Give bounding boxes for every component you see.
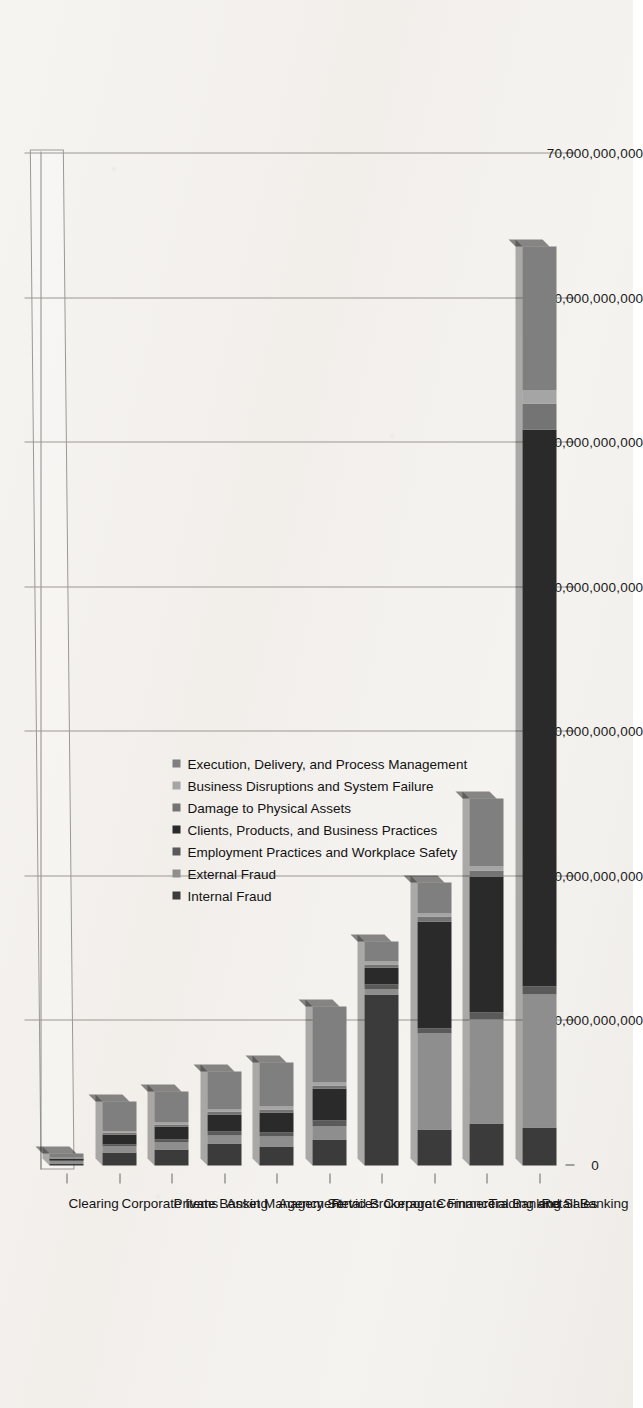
bar-segment[interactable]	[364, 984, 398, 988]
bar-segment[interactable]	[259, 1146, 293, 1165]
bar-top-face-3d	[410, 875, 417, 1165]
bar-stack[interactable]	[364, 941, 398, 1165]
legend-swatch-icon	[172, 891, 180, 899]
bar-segment[interactable]	[312, 1006, 346, 1082]
legend-label: Internal Fraud	[187, 888, 271, 903]
bar-end-face-3d	[140, 1084, 181, 1091]
bar-segment[interactable]	[417, 1129, 451, 1165]
bar-end-face-3d	[403, 875, 444, 882]
bar-segment[interactable]	[364, 989, 398, 995]
bar-end-face-3d	[245, 1055, 286, 1062]
bar-segment[interactable]	[469, 1019, 503, 1123]
bar-top-face-3d	[462, 791, 469, 1165]
bar-segment[interactable]	[154, 1149, 188, 1165]
bar-top-face-3d	[147, 1084, 154, 1165]
bar-stack[interactable]	[522, 246, 556, 1165]
bar-segment[interactable]	[207, 1131, 241, 1135]
bar-segment[interactable]	[102, 1101, 136, 1130]
bar-segment[interactable]	[417, 916, 451, 920]
bar-segment[interactable]	[364, 941, 398, 962]
bar-segment[interactable]	[417, 1033, 451, 1128]
bar-segment[interactable]	[469, 866, 503, 870]
bar-segment[interactable]	[417, 1028, 451, 1034]
legend-item[interactable]: Clients, Products, and Business Practice…	[172, 822, 437, 837]
plot-area: 010,000,000,00020,000,000,00030,000,000,…	[40, 153, 565, 1165]
bar-stack[interactable]	[417, 882, 451, 1165]
category-tick-mark	[224, 1173, 225, 1183]
bar-segment[interactable]	[207, 1071, 241, 1109]
legend-swatch-icon	[172, 869, 180, 877]
bar-segment[interactable]	[207, 1143, 241, 1165]
bar-segment[interactable]	[522, 1127, 556, 1165]
category-tick-mark	[486, 1173, 487, 1183]
bar-segment[interactable]	[312, 1088, 346, 1120]
bar-top-face-3d	[515, 239, 522, 1165]
bar-stack[interactable]	[49, 1153, 83, 1165]
bar-segment[interactable]	[469, 870, 503, 876]
bar-segment[interactable]	[417, 882, 451, 913]
legend-item[interactable]: External Fraud	[172, 866, 276, 881]
legend-swatch-icon	[172, 759, 180, 767]
category-tick-mark	[119, 1173, 120, 1183]
bar-segment[interactable]	[259, 1136, 293, 1146]
bar-stack[interactable]	[312, 1006, 346, 1165]
bar-segment[interactable]	[207, 1114, 241, 1131]
bar-segment[interactable]	[154, 1126, 188, 1139]
bar-segment[interactable]	[312, 1085, 346, 1089]
bar-segment[interactable]	[312, 1126, 346, 1139]
bar-segment[interactable]	[154, 1091, 188, 1122]
bar-segment[interactable]	[469, 876, 503, 1012]
bar-segment[interactable]	[259, 1132, 293, 1136]
category-tick-mark	[171, 1173, 172, 1183]
bar-stack[interactable]	[469, 798, 503, 1165]
bar-segment[interactable]	[49, 1153, 83, 1157]
bar-stack[interactable]	[154, 1091, 188, 1165]
legend-item[interactable]: Internal Fraud	[172, 888, 271, 903]
bar-end-face-3d	[35, 1146, 76, 1153]
bar-end-face-3d	[350, 934, 391, 941]
bar-segment[interactable]	[522, 994, 556, 1127]
bar-segment[interactable]	[102, 1152, 136, 1165]
bar-segment[interactable]	[469, 1012, 503, 1019]
category-tick-mark	[66, 1173, 67, 1183]
bar-segment[interactable]	[102, 1134, 136, 1144]
legend-item[interactable]: Damage to Physical Assets	[172, 800, 351, 815]
legend-label: External Fraud	[187, 866, 276, 881]
bar-top-face-3d	[357, 934, 364, 1165]
bar-end-face-3d	[508, 239, 549, 246]
legend-item[interactable]: Employment Practices and Workplace Safet…	[172, 844, 457, 859]
legend-label: Employment Practices and Workplace Safet…	[187, 844, 457, 859]
bar-segment[interactable]	[364, 994, 398, 1165]
bar-segment[interactable]	[312, 1120, 346, 1126]
bar-segment[interactable]	[364, 967, 398, 984]
bar-segment[interactable]	[522, 390, 556, 403]
legend-item[interactable]: Execution, Delivery, and Process Managem…	[172, 756, 467, 771]
bar-segment[interactable]	[417, 913, 451, 917]
category-tick-mark	[434, 1173, 435, 1183]
bar-segment[interactable]	[522, 986, 556, 995]
bar-segment[interactable]	[522, 429, 556, 986]
category-tick-mark	[539, 1173, 540, 1183]
category-tick-mark	[276, 1173, 277, 1183]
bar-end-face-3d	[298, 999, 339, 1006]
bar-segment[interactable]	[469, 798, 503, 866]
bar-stack[interactable]	[102, 1101, 136, 1165]
bar-segment[interactable]	[469, 1123, 503, 1165]
bar-segment[interactable]	[522, 403, 556, 429]
bar-stack[interactable]	[207, 1071, 241, 1165]
legend-item[interactable]: Business Disruptions and System Failure	[172, 778, 433, 793]
bar-segment[interactable]	[417, 921, 451, 1028]
bar-segment[interactable]	[312, 1139, 346, 1165]
legend-swatch-icon	[172, 825, 180, 833]
bar-segment[interactable]	[102, 1146, 136, 1152]
bar-series-group	[40, 153, 565, 1165]
category-tick-label: Retail Banking	[541, 1195, 628, 1210]
bar-stack[interactable]	[259, 1062, 293, 1165]
bar-segment[interactable]	[207, 1135, 241, 1144]
bar-segment[interactable]	[259, 1112, 293, 1132]
bar-segment[interactable]	[154, 1142, 188, 1149]
bar-segment[interactable]	[259, 1062, 293, 1106]
bar-segment[interactable]	[522, 246, 556, 391]
